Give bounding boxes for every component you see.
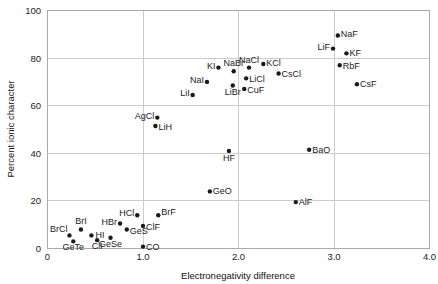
data-point-marker[interactable] bbox=[208, 189, 212, 193]
data-point-marker[interactable] bbox=[338, 63, 342, 67]
data-point[interactable]: HCl bbox=[119, 208, 139, 218]
y-tick-label: 20 bbox=[30, 195, 41, 206]
data-point[interactable]: AlF bbox=[294, 197, 313, 207]
data-point-label: GeO bbox=[213, 186, 232, 196]
data-point-label: CsCl bbox=[282, 69, 302, 79]
data-point-marker[interactable] bbox=[153, 124, 157, 128]
data-point-label: GeTe bbox=[63, 242, 85, 252]
data-point-label: LiH bbox=[158, 122, 172, 132]
data-point-label: BrF bbox=[161, 207, 176, 217]
y-tick-label: 0 bbox=[36, 243, 41, 254]
data-point-label: HF bbox=[223, 153, 235, 163]
data-point-marker[interactable] bbox=[216, 65, 220, 69]
data-point-label: KCl bbox=[266, 58, 281, 68]
data-point-marker[interactable] bbox=[205, 80, 209, 84]
data-point-marker[interactable] bbox=[344, 51, 348, 55]
data-point[interactable]: BrI bbox=[75, 216, 87, 231]
data-point-marker[interactable] bbox=[190, 93, 194, 97]
data-point[interactable]: LiCl bbox=[244, 74, 265, 84]
data-point[interactable]: KI bbox=[207, 61, 221, 71]
data-point-marker[interactable] bbox=[141, 224, 145, 228]
data-point-marker[interactable] bbox=[307, 148, 311, 152]
data-point[interactable]: GeO bbox=[208, 186, 232, 196]
data-point[interactable]: HF bbox=[223, 149, 235, 163]
data-point[interactable]: GeTe bbox=[63, 239, 85, 252]
data-point-label: KI bbox=[207, 61, 216, 71]
data-point-label: NaI bbox=[190, 75, 204, 85]
data-point-label: CuF bbox=[247, 85, 265, 95]
data-point-label: NaCl bbox=[239, 55, 259, 65]
data-point[interactable]: CuF bbox=[242, 85, 265, 95]
gridline-group bbox=[48, 11, 430, 249]
data-point[interactable]: BrCl bbox=[50, 224, 72, 237]
data-point-label: HCl bbox=[119, 208, 134, 218]
data-point-label: LiF bbox=[318, 42, 331, 52]
scatter-chart-figure: 020406080100 01.02.03.04.0 Electronegati… bbox=[0, 0, 438, 284]
data-point-marker[interactable] bbox=[276, 71, 280, 75]
data-point-marker[interactable] bbox=[89, 233, 93, 237]
data-point-marker[interactable] bbox=[261, 62, 265, 66]
data-point-label: CsF bbox=[360, 79, 377, 89]
data-point[interactable]: CsCl bbox=[276, 69, 301, 79]
data-point-marker[interactable] bbox=[331, 46, 335, 50]
data-point-marker[interactable] bbox=[294, 200, 298, 204]
data-point-marker[interactable] bbox=[118, 221, 122, 225]
x-axis-title: Electronegativity difference bbox=[181, 270, 295, 281]
data-point-marker[interactable] bbox=[244, 76, 248, 80]
data-point[interactable]: GeS bbox=[125, 226, 148, 236]
data-point[interactable]: CsF bbox=[355, 79, 377, 89]
data-point[interactable]: RbF bbox=[338, 61, 361, 71]
data-point-marker[interactable] bbox=[232, 69, 236, 73]
data-point[interactable]: LiI bbox=[180, 88, 195, 98]
data-point-marker[interactable] bbox=[336, 33, 340, 37]
y-tick-label: 80 bbox=[30, 53, 41, 64]
data-point-label: AgCl bbox=[135, 111, 155, 121]
data-point-marker[interactable] bbox=[242, 87, 246, 91]
x-tick-label: 4.0 bbox=[423, 251, 436, 262]
chart-canvas: 020406080100 01.02.03.04.0 Electronegati… bbox=[0, 0, 438, 284]
data-point-label: BrI bbox=[75, 216, 87, 226]
y-axis-tick-labels: 020406080100 bbox=[25, 5, 41, 254]
data-point-label: NaF bbox=[341, 29, 359, 39]
data-point[interactable]: AgCl bbox=[135, 111, 160, 121]
data-point[interactable]: KF bbox=[344, 48, 361, 58]
data-point-marker[interactable] bbox=[141, 244, 145, 248]
data-point-label: RbF bbox=[343, 61, 361, 71]
data-point-label: BrCl bbox=[50, 224, 68, 234]
data-point-label: LiCl bbox=[249, 74, 265, 84]
data-point-marker[interactable] bbox=[79, 227, 83, 231]
data-point-marker[interactable] bbox=[156, 213, 160, 217]
data-point-label: CO bbox=[146, 242, 160, 252]
data-point-label: GeSe bbox=[99, 239, 122, 249]
y-tick-label: 60 bbox=[30, 100, 41, 111]
data-point[interactable]: BrF bbox=[156, 207, 176, 217]
x-tick-label: 3.0 bbox=[327, 251, 340, 262]
y-tick-label: 40 bbox=[30, 148, 41, 159]
x-tick-label: 1.0 bbox=[136, 251, 149, 262]
data-point-label: LiBr bbox=[225, 87, 241, 97]
data-point[interactable]: LiF bbox=[318, 42, 336, 52]
data-point-marker[interactable] bbox=[125, 227, 129, 231]
data-point-label: AlF bbox=[299, 197, 313, 207]
y-tick-label: 100 bbox=[25, 5, 41, 16]
x-axis-tick-labels: 01.02.03.04.0 bbox=[45, 251, 436, 262]
data-point-label: LiI bbox=[180, 88, 190, 98]
data-point-marker[interactable] bbox=[135, 213, 139, 217]
data-point[interactable]: KCl bbox=[261, 58, 281, 68]
data-point[interactable]: NaF bbox=[336, 29, 359, 39]
y-axis-title: Percent ionic character bbox=[5, 80, 16, 177]
data-point-label: KF bbox=[349, 48, 361, 58]
data-point-label: BaO bbox=[312, 145, 330, 155]
data-point[interactable]: NaI bbox=[190, 75, 209, 85]
data-point-marker[interactable] bbox=[247, 65, 251, 69]
data-point[interactable]: LiH bbox=[153, 122, 172, 132]
data-point-label: ClF bbox=[146, 222, 160, 232]
data-point-marker[interactable] bbox=[155, 115, 159, 119]
x-tick-label: 0 bbox=[45, 251, 50, 262]
x-tick-label: 2.0 bbox=[232, 251, 245, 262]
data-point-label: HBr bbox=[102, 217, 118, 227]
data-point-marker[interactable] bbox=[67, 233, 71, 237]
data-point-group: BrClGeTeBrIHIClIGeSeHBrGeSHClClFCOBrFAgC… bbox=[50, 29, 377, 252]
data-point-marker[interactable] bbox=[355, 82, 359, 86]
